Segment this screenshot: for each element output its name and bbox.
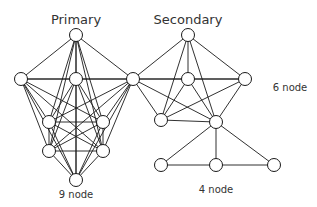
edge (133, 79, 161, 120)
node-f_mid (210, 159, 223, 172)
node-s_lowr (210, 116, 223, 129)
six-node-label: 6 node (273, 82, 308, 93)
edge (161, 120, 216, 122)
node-f_right (268, 159, 281, 172)
node-p_top (70, 29, 83, 42)
edge (216, 122, 274, 165)
edges (21, 35, 274, 180)
edge (188, 35, 245, 79)
edge (216, 79, 245, 122)
node-s_lowl (155, 114, 168, 127)
node-p_center (70, 73, 83, 86)
edge (49, 35, 76, 151)
edge (161, 122, 216, 165)
four-node-label: 4 node (199, 184, 234, 195)
node-p_bottom (70, 174, 83, 187)
node-p_lowl (43, 145, 56, 158)
node-p_midr (97, 116, 110, 129)
edge (76, 79, 133, 180)
edge (161, 79, 245, 120)
node-f_left (155, 159, 168, 172)
secondary-label: Secondary (154, 12, 223, 27)
edge (21, 79, 76, 180)
edge (188, 79, 216, 122)
edge (133, 79, 216, 122)
node-p_midl (43, 116, 56, 129)
node-s_right (239, 73, 252, 86)
node-s_center (182, 73, 195, 86)
node-p_left (15, 73, 28, 86)
node-shared (127, 73, 140, 86)
network-diagram: Primary Secondary 9 node 6 node 4 node (0, 0, 317, 207)
node-s_top (182, 29, 195, 42)
edge (133, 35, 188, 79)
node-p_lowr (97, 145, 110, 158)
nine-node-label: 9 node (59, 189, 94, 200)
primary-label: Primary (51, 12, 102, 27)
